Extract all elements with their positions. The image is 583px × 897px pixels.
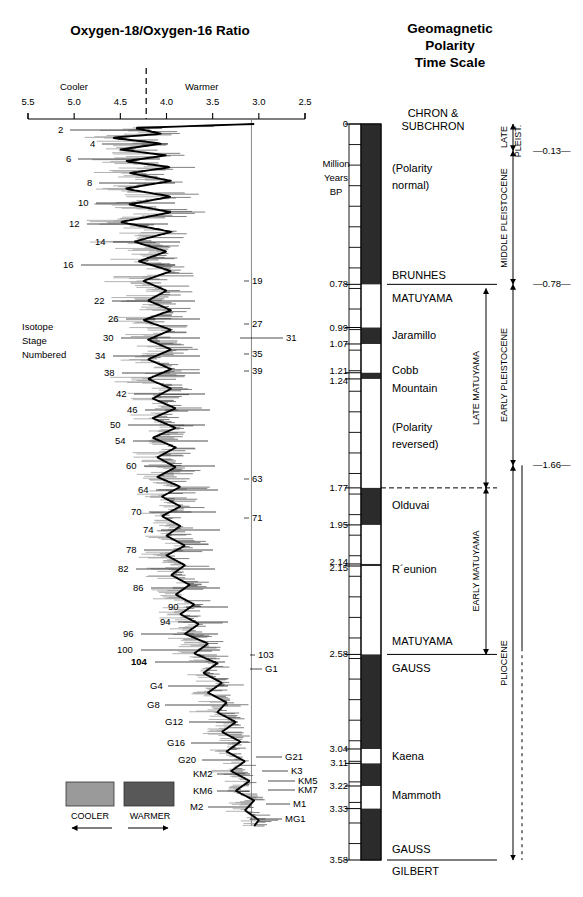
age-label-0.78: 0.78: [316, 279, 348, 289]
isotope-stage-label-34: 34: [95, 351, 106, 361]
axis-tick-label-4.5: 4.5: [110, 97, 130, 107]
polarity-band-normal: [361, 373, 381, 379]
polarity-band-normal: [361, 124, 381, 284]
isotope-caption-line-2: Stage: [22, 336, 47, 346]
isotope-stage-label-MG1: MG1: [285, 814, 306, 824]
axis-tick-label-5.0: 5.0: [64, 97, 84, 107]
chron-label-Mammoth: Mammoth: [392, 790, 441, 801]
isotope-stage-label-16: 16: [63, 260, 74, 270]
isotope-stage-label-50: 50: [110, 420, 121, 430]
axis-tick-label-5.5: 5.5: [18, 97, 38, 107]
chron-label-GILBERT: GILBERT: [392, 866, 439, 877]
axis-label-cooler: Cooler: [60, 82, 88, 92]
isotope-stage-label-60: 60: [126, 461, 137, 471]
legend-label-cooler: COOLER: [66, 812, 114, 821]
polarity-band-normal: [361, 488, 381, 525]
isotope-stage-label-G8: G8: [147, 700, 160, 710]
age-label-1.95: 1.95: [316, 520, 348, 530]
isotope-stage-label-96: 96: [123, 629, 134, 639]
axis-tick-label-4.0: 4.0: [157, 97, 177, 107]
isotope-stage-label-12: 12: [69, 219, 80, 229]
isotope-stage-label-100: 100: [117, 645, 133, 655]
axis-tick-label-3.5: 3.5: [203, 97, 223, 107]
chron-label-BRUNHES: BRUNHES: [392, 270, 446, 281]
isotope-stage-label-31: 31: [286, 333, 297, 343]
isotope-smoothed-curve: [114, 124, 259, 826]
legend-swatch-cooler: [66, 782, 114, 806]
polarity-band-normal: [361, 328, 381, 344]
age-label-1.24: 1.24: [316, 376, 348, 386]
age-label-2.15: 2.15: [316, 563, 348, 573]
chron-label-Reunion: R´eunion: [392, 564, 437, 575]
epoch-bracket-label: PLIOCENE: [500, 640, 509, 686]
isotope-stage-label-54: 54: [115, 436, 126, 446]
matuyama-bracket-label: LATE MATUYAMA: [472, 351, 481, 425]
isotope-stage-label-103: 103: [258, 650, 274, 660]
right-panel-title-line-1: Geomagnetic: [370, 22, 530, 36]
age-label-3.04: 3.04: [316, 744, 348, 754]
isotope-stage-label-KM6: KM6: [193, 786, 213, 796]
age-axis-title-line-3: BP: [316, 187, 356, 197]
matuyama-bracket-label: EARLY MATUYAMA: [472, 531, 481, 612]
isotope-stage-label-70: 70: [131, 507, 142, 517]
axis-tick-label-2.5: 2.5: [295, 97, 315, 107]
age-label-3.58: 3.58: [316, 855, 348, 865]
polarity-band-normal: [361, 654, 381, 749]
isotope-stage-label-94: 94: [160, 617, 171, 627]
isotope-stage-label-90: 90: [168, 602, 179, 612]
isotope-stage-label-39: 39: [252, 366, 263, 376]
isotope-stage-label-26: 26: [108, 314, 119, 324]
isotope-stage-label-63: 63: [252, 474, 263, 484]
right-panel-title-line-3: Time Scale: [370, 56, 530, 70]
legend-label-warmer: WARMER: [124, 812, 176, 821]
chron-column-header-line-1: CHRON &: [388, 108, 478, 119]
axis-label-warmer: Warmer: [185, 82, 218, 92]
isotope-stage-label-86: 86: [133, 583, 144, 593]
isotope-stage-label-30: 30: [103, 333, 114, 343]
chron-label-normal: normal): [392, 180, 429, 191]
chron-label-reversed: reversed): [392, 439, 438, 450]
isotope-stage-label-71: 71: [252, 513, 263, 523]
age-label-1.77: 1.77: [316, 483, 348, 493]
isotope-stage-label-10: 10: [78, 198, 89, 208]
right-panel-title-line-2: Polarity: [370, 39, 530, 53]
polarity-band-normal: [361, 809, 381, 860]
boundary-age-marker-1.66: —1.66—: [533, 460, 571, 470]
isotope-stage-label-8: 8: [87, 178, 92, 188]
isotope-stage-label-G12: G12: [165, 717, 183, 727]
figure-canvas: [0, 0, 583, 897]
legend-swatch-warmer: [124, 782, 174, 806]
chron-label-Cobb: Cobb: [392, 365, 418, 376]
epoch-bracket-label: EARLY PLEISTOCENE: [500, 328, 509, 422]
isotope-stage-label-G16: G16: [167, 738, 185, 748]
isotope-stage-label-G4: G4: [150, 681, 163, 691]
polarity-band-normal: [361, 763, 381, 786]
isotope-stage-label-6: 6: [66, 154, 71, 164]
chron-column-header-line-2: SUBCHRON: [388, 121, 478, 132]
chron-label-MATUYAMA: MATUYAMA: [392, 636, 453, 647]
isotope-stage-label-104: 104: [131, 657, 147, 667]
chron-label-Polarity: (Polarity: [392, 163, 432, 174]
chron-label-Olduvai: Olduvai: [392, 500, 429, 511]
boundary-age-marker-0.78: —0.78—: [533, 279, 571, 289]
isotope-stage-label-22: 22: [94, 296, 105, 306]
epoch-bracket-label: LATE: [500, 126, 509, 148]
age-label-2.58: 2.58: [316, 649, 348, 659]
figure-root: Oxygen-18/Oxygen-16 Ratio Cooler Warmer …: [0, 0, 583, 897]
isotope-stage-label-G21: G21: [285, 752, 303, 762]
isotope-stage-label-42: 42: [116, 389, 127, 399]
isotope-caption-line-1: Isotope: [22, 322, 53, 332]
polarity-band-normal: [361, 564, 381, 566]
isotope-stage-label-64: 64: [138, 485, 149, 495]
isotope-stage-label-74: 74: [143, 525, 154, 535]
isotope-stage-label-14: 14: [95, 237, 106, 247]
age-label-1.21: 1.21: [316, 366, 348, 376]
isotope-stage-label-M2: M2: [190, 802, 203, 812]
isotope-stage-label-46: 46: [127, 405, 138, 415]
epoch-bracket-sublabel: PLEIST.: [514, 125, 523, 158]
chron-label-Polarity: (Polarity: [392, 422, 432, 433]
chron-label-Jaramillo: Jaramillo: [392, 330, 436, 341]
boundary-age-marker-0.13: —0.13—: [533, 146, 571, 156]
epoch-bracket-label: MIDDLE PLEISTOCENE: [500, 168, 509, 267]
age-label-3.22: 3.22: [316, 781, 348, 791]
